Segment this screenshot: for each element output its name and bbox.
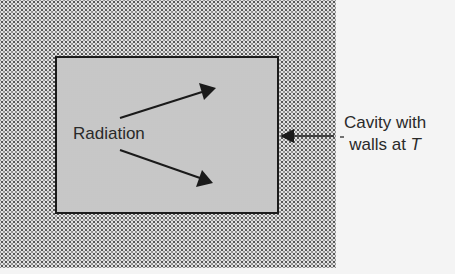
cavity-label-prefix: walls at [349, 135, 410, 154]
pointer-arrow-icon [280, 129, 344, 143]
radiation-label: Radiation [73, 124, 145, 144]
temperature-variable: T [411, 135, 421, 154]
cavity-label-line1: Cavity with [344, 112, 426, 134]
radiation-arrow-up-icon [120, 83, 216, 118]
radiation-arrow-down-icon [120, 150, 213, 187]
cavity-label-line2: walls at T [344, 134, 426, 156]
cavity-label: Cavity with walls at T [344, 112, 426, 156]
